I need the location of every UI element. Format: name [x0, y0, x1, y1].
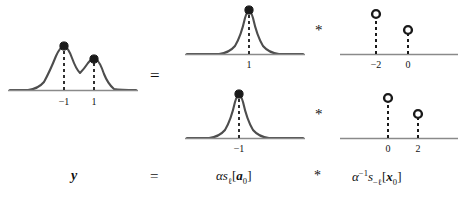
result-curve-path [10, 46, 136, 90]
equals-sign-main: = [150, 66, 160, 86]
panel-stems-top: −2 0 [338, 4, 460, 62]
caption-equals-sign: = [150, 168, 158, 185]
stems-top-marker-1 [404, 26, 412, 34]
result-peak-marker-right [90, 55, 98, 63]
kernel-top-curve-path [187, 11, 303, 54]
caption-lhs-y: y [71, 168, 77, 184]
kernel-top-peak-marker [245, 6, 253, 14]
panel-stems-bottom: 0 2 [338, 88, 460, 146]
panel-kernel-top: 1 [185, 4, 305, 62]
result-peak-marker-left [60, 42, 68, 50]
caption-term2-subscript: −ℓ [373, 177, 382, 187]
figure-canvas: −1 1 = 1 * −2 0 − [0, 0, 468, 204]
convolution-operator-bottom: * [315, 106, 323, 123]
panel-kernel-bottom: −1 [185, 88, 305, 146]
stems-bottom-marker-0 [384, 94, 392, 102]
panel-result-curve: −1 1 [8, 38, 138, 98]
kernel-bottom-svg [185, 88, 305, 146]
result-curve-svg [8, 38, 138, 98]
convolution-operator-top: * [315, 22, 323, 39]
kernel-bottom-peak-marker [235, 90, 243, 98]
stems-top-marker-0 [372, 10, 380, 18]
stems-top-tick-label-0: −2 [371, 59, 382, 70]
result-tick-label-0: −1 [59, 96, 70, 107]
kernel-top-svg [185, 4, 305, 62]
kernel-bottom-curve-path [187, 95, 303, 138]
caption-term1-alpha: α [216, 168, 223, 183]
caption-convolution-operator: * [314, 168, 321, 184]
stems-bottom-tick-label-0: 0 [386, 143, 391, 154]
stems-bottom-tick-label-1: 2 [416, 143, 421, 154]
caption-term1-bracket-close: ] [247, 168, 251, 183]
caption-term2-alpha-superscript: −1 [359, 168, 368, 178]
stems-bottom-svg [338, 88, 460, 146]
stems-bottom-marker-1 [414, 110, 422, 118]
caption-term2-alpha: α [352, 169, 359, 184]
caption-term2-bracket-close: ] [397, 169, 401, 184]
kernel-top-tick-label-0: 1 [247, 59, 252, 70]
caption-term-alpha-inv-s-x0: α−1s−ℓ[x0] [352, 168, 401, 187]
stems-top-tick-label-1: 0 [406, 59, 411, 70]
stems-top-svg [338, 4, 460, 62]
kernel-bottom-tick-label-0: −1 [234, 143, 245, 154]
caption-term-alpha-s-a0: αsℓ[a0] [216, 168, 251, 186]
result-tick-label-1: 1 [92, 96, 97, 107]
